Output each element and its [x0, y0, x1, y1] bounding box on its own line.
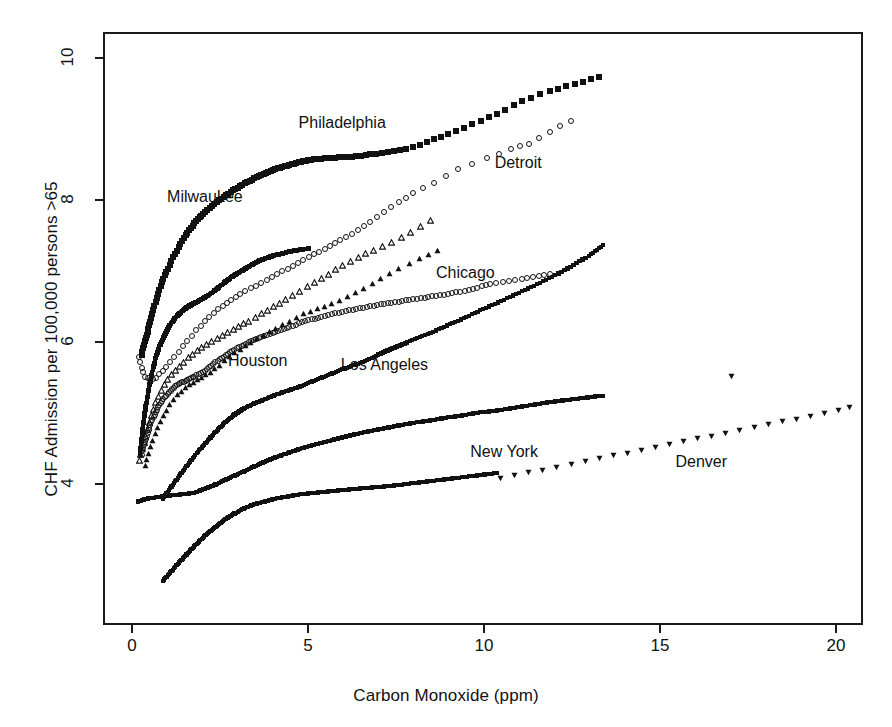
chart-figure: 10 8 6 4 0 5 10 15 20 PhiladelphiaMilwau…	[0, 0, 892, 727]
data-point	[539, 460, 546, 467]
data-point	[497, 468, 504, 475]
x-tick-label-20: 20	[816, 636, 856, 656]
data-point	[624, 443, 631, 450]
y-tick-mark-10	[95, 57, 103, 59]
data-point	[835, 400, 842, 407]
data-point	[553, 457, 560, 464]
data-point	[722, 423, 729, 430]
x-tick-mark-20	[835, 625, 837, 633]
data-point	[765, 414, 772, 421]
data-point	[582, 451, 589, 458]
series-label-houston: Houston	[228, 352, 288, 370]
y-tick-mark-6	[95, 341, 103, 343]
x-tick-mark-10	[483, 625, 485, 633]
data-point	[728, 366, 735, 373]
x-tick-label-0: 0	[112, 636, 152, 656]
series-label-philadelphia: Philadelphia	[299, 114, 386, 132]
x-axis-title: Carbon Monoxide (ppm)	[0, 686, 892, 706]
data-point	[638, 440, 645, 447]
series-label-chicago: Chicago	[436, 264, 495, 282]
x-tick-mark-5	[307, 625, 309, 633]
series-label-los-angeles: Los Angeles	[341, 356, 428, 374]
data-point	[666, 434, 673, 441]
data-point	[511, 465, 518, 472]
data-point	[846, 397, 853, 404]
data-point	[610, 445, 617, 452]
series-label-denver: Denver	[675, 453, 727, 471]
data-point	[680, 431, 687, 438]
series-label-new-york: New York	[470, 443, 538, 461]
x-tick-label-10: 10	[464, 636, 504, 656]
x-tick-label-15: 15	[640, 636, 680, 656]
series-label-detroit: Detroit	[495, 154, 542, 172]
data-point	[807, 406, 814, 413]
data-point	[694, 428, 701, 435]
data-point	[525, 462, 532, 469]
x-tick-mark-0	[131, 625, 133, 633]
data-point	[568, 454, 575, 461]
data-point	[652, 437, 659, 444]
data-point	[751, 417, 758, 424]
y-tick-mark-4	[95, 483, 103, 485]
data-point	[779, 411, 786, 418]
data-point	[736, 420, 743, 427]
data-point	[708, 426, 715, 433]
series-label-milwaukee: Milwaukee	[167, 188, 243, 206]
data-point	[596, 448, 603, 455]
data-point	[793, 409, 800, 416]
y-axis-title: CHF Admission per 100,000 persons >65	[42, 39, 62, 639]
x-tick-mark-15	[659, 625, 661, 633]
series-denver	[103, 32, 863, 625]
y-tick-mark-8	[95, 199, 103, 201]
data-point	[821, 403, 828, 410]
x-tick-label-5: 5	[288, 636, 328, 656]
plot-data-area: PhiladelphiaMilwaukeeDetroitChicagoHoust…	[103, 32, 863, 625]
